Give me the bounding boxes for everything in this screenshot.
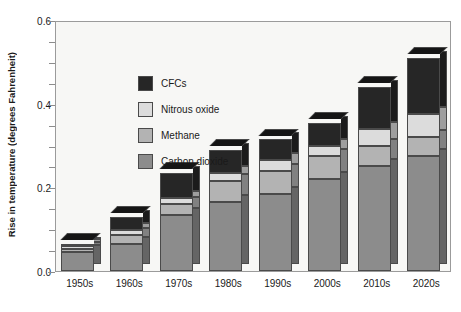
x-tick-label: 2000s bbox=[314, 278, 341, 289]
legend-swatch-icon bbox=[138, 128, 153, 143]
chart-legend: CFCsNitrous oxideMethaneCarbon dioxide bbox=[138, 72, 278, 176]
bar-top-face bbox=[308, 112, 348, 119]
bar-group bbox=[308, 20, 348, 271]
bar-segment bbox=[61, 246, 94, 249]
bar-segment bbox=[110, 230, 143, 235]
bar-segment-side bbox=[292, 187, 299, 264]
bar-segment-side bbox=[440, 51, 447, 107]
y-axis-major-tick bbox=[48, 272, 55, 273]
legend-item-label: Methane bbox=[161, 130, 200, 141]
bar-segment bbox=[407, 156, 440, 271]
bar-segment-side bbox=[94, 245, 101, 264]
legend-item-label: Carbon dioxide bbox=[161, 156, 228, 167]
bar-segment-side bbox=[391, 159, 398, 264]
bar-segment bbox=[358, 129, 391, 146]
x-tick-label: 1980s bbox=[215, 278, 242, 289]
bar-segment bbox=[308, 146, 341, 156]
plot-area: CFCsNitrous oxideMethaneCarbon dioxide bbox=[55, 21, 451, 272]
bar-segment bbox=[308, 123, 341, 146]
bar-segment bbox=[407, 114, 440, 137]
legend-swatch-icon bbox=[138, 76, 153, 91]
y-axis-major-tick bbox=[48, 105, 55, 106]
bar-segment bbox=[209, 202, 242, 271]
y-axis-tick-labels: 0.00.20.40.6 bbox=[18, 0, 51, 312]
y-axis-minor-tick bbox=[49, 63, 55, 64]
x-tick-label: 1950s bbox=[66, 278, 93, 289]
bar-segment-side bbox=[341, 149, 348, 172]
bar-group bbox=[61, 20, 101, 271]
bar-top-face bbox=[407, 47, 447, 54]
bar-segment bbox=[358, 166, 391, 271]
bar-segment-side bbox=[94, 239, 101, 242]
x-tick-label: 1970s bbox=[165, 278, 192, 289]
y-axis-minor-tick bbox=[49, 167, 55, 168]
bar-segment bbox=[61, 252, 94, 271]
y-axis-title-text: Rise in temperature (degrees Fahrenheit) bbox=[6, 52, 17, 237]
legend-item-label: CFCs bbox=[161, 78, 187, 89]
x-tick-label: 2010s bbox=[363, 278, 390, 289]
bar-group bbox=[407, 20, 447, 271]
y-tick-label: 0.4 bbox=[18, 99, 51, 110]
bar-segment-side bbox=[242, 174, 249, 195]
bar-segment-side bbox=[193, 191, 200, 197]
bar-segment-side bbox=[341, 116, 348, 139]
legend-item: Carbon dioxide bbox=[138, 150, 278, 173]
bar-segment bbox=[160, 215, 193, 271]
bar-segment-side bbox=[143, 228, 150, 236]
legend-item-label: Nitrous oxide bbox=[161, 104, 219, 115]
bar-segment bbox=[61, 244, 94, 246]
bar-segment-side bbox=[143, 223, 150, 228]
bar-segment-side bbox=[391, 80, 398, 122]
bar-segment bbox=[407, 58, 440, 114]
bar-segment bbox=[160, 204, 193, 214]
bar-segment bbox=[358, 146, 391, 167]
y-tick-label: 0.0 bbox=[18, 267, 51, 278]
bar-segment-side bbox=[292, 132, 299, 153]
bar-segment-side bbox=[292, 153, 299, 163]
y-axis-minor-tick bbox=[49, 230, 55, 231]
bar-segment-side bbox=[193, 197, 200, 207]
bar-segment-side bbox=[193, 208, 200, 264]
y-axis-minor-tick bbox=[49, 147, 55, 148]
bar-segment bbox=[160, 198, 193, 204]
y-tick-label: 0.2 bbox=[18, 183, 51, 194]
y-axis-minor-tick bbox=[49, 42, 55, 43]
bar-segment bbox=[308, 179, 341, 271]
bar-segment bbox=[358, 87, 391, 129]
bar-top-face bbox=[110, 206, 150, 213]
bar-segment bbox=[110, 217, 143, 230]
bar-segment-side bbox=[391, 139, 398, 160]
legend-item: CFCs bbox=[138, 72, 278, 95]
bar-segment-side bbox=[341, 172, 348, 264]
bar-segment-side bbox=[391, 122, 398, 139]
bar-segment-side bbox=[440, 130, 447, 149]
bar-group bbox=[358, 20, 398, 271]
bar-segment-side bbox=[341, 139, 348, 149]
bar-segment bbox=[209, 181, 242, 202]
bar-segment bbox=[110, 235, 143, 243]
y-axis-minor-tick bbox=[49, 84, 55, 85]
bar-segment-side bbox=[440, 149, 447, 264]
x-tick-label: 1990s bbox=[264, 278, 291, 289]
y-axis-minor-tick bbox=[49, 209, 55, 210]
bar-segment bbox=[308, 156, 341, 179]
y-axis-major-tick bbox=[48, 21, 55, 22]
bar-segment bbox=[61, 249, 94, 252]
legend-item: Methane bbox=[138, 124, 278, 147]
y-axis-major-tick bbox=[48, 188, 55, 189]
bar-segment-side bbox=[242, 195, 249, 264]
bar-segment bbox=[110, 244, 143, 271]
y-axis-minor-tick bbox=[49, 126, 55, 127]
bar-segment-side bbox=[292, 164, 299, 187]
x-tick-label: 2020s bbox=[413, 278, 440, 289]
bar-segment-side bbox=[94, 242, 101, 245]
bar-segment-side bbox=[143, 237, 150, 264]
stacked-bar-chart: Rise in temperature (degrees Fahrenheit)… bbox=[0, 0, 461, 312]
y-tick-label: 0.6 bbox=[18, 16, 51, 27]
legend-swatch-icon bbox=[138, 102, 153, 117]
x-tick-label: 1960s bbox=[116, 278, 143, 289]
legend-item: Nitrous oxide bbox=[138, 98, 278, 121]
bar-segment bbox=[259, 194, 292, 271]
y-axis-minor-tick bbox=[49, 251, 55, 252]
bar-segment-side bbox=[440, 107, 447, 130]
